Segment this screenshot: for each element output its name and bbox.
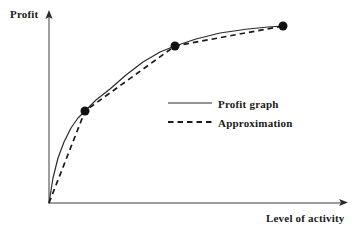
knot-point-marker: [81, 107, 90, 116]
x-axis-label: Level of activity: [266, 212, 345, 224]
knot-point-marker: [171, 42, 180, 51]
legend-label-approximation: Approximation: [218, 117, 293, 129]
profit-graph-figure: Profit Level of activity Profit graph Ap…: [0, 0, 359, 236]
legend-label-profit-graph: Profit graph: [218, 98, 279, 110]
plot-canvas: [0, 0, 359, 236]
knot-point-marker: [279, 22, 288, 31]
y-axis-label: Profit: [10, 8, 39, 20]
